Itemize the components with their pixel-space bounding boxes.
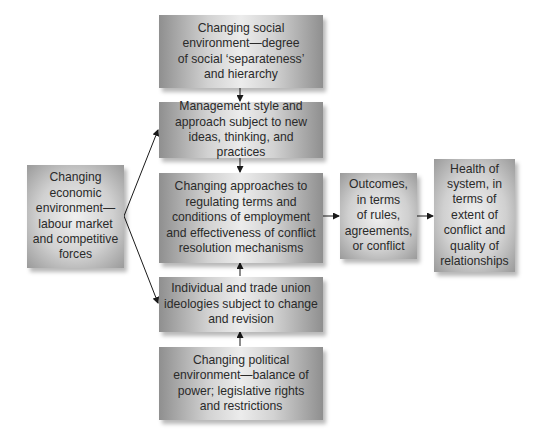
node-label: Management style and approach subject to… <box>163 99 319 161</box>
node-social-environment: Changing social environment—degree of so… <box>159 15 323 88</box>
arrow-economic-to-management <box>124 130 158 216</box>
node-label: Health of system, in terms of extent of … <box>440 162 508 270</box>
node-union-ideologies: Individual and trade union ideologies su… <box>159 277 323 332</box>
node-regulating-approaches: Changing approaches to regulating terms … <box>159 173 323 263</box>
node-outcomes: Outcomes, in terms of rules, agreements,… <box>340 173 417 259</box>
node-political-environment: Changing political environment—balance o… <box>159 347 323 420</box>
node-label: Changing economic environment— labour ma… <box>33 170 118 262</box>
node-management-style: Management style and approach subject to… <box>159 102 323 158</box>
node-system-health: Health of system, in terms of extent of … <box>434 159 515 272</box>
arrow-economic-to-ideologies <box>124 216 158 303</box>
node-label: Outcomes, in terms of rules, agreements,… <box>345 177 413 254</box>
node-label: Changing social environment—degree of so… <box>178 21 305 83</box>
node-label: Changing political environment—balance o… <box>173 353 309 415</box>
node-label: Individual and trade union ideologies su… <box>164 281 318 327</box>
node-label: Changing approaches to regulating terms … <box>166 179 316 256</box>
node-economic-environment: Changing economic environment— labour ma… <box>27 165 124 268</box>
